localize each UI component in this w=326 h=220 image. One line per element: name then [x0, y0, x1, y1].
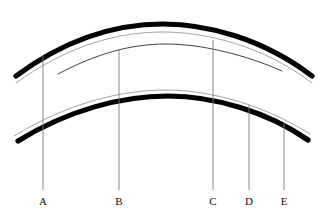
label-e: E — [281, 196, 288, 207]
label-a: A — [39, 196, 47, 207]
lower-thick-arc — [18, 96, 308, 141]
diagram-canvas — [0, 0, 326, 220]
label-c: C — [209, 196, 216, 207]
arc-diagram-figure: A B C D E — [0, 0, 326, 220]
label-d: D — [245, 196, 253, 207]
upper-thin-light-arc — [16, 32, 312, 83]
inner-thin-dark-arc — [58, 44, 282, 74]
label-b: B — [115, 196, 122, 207]
